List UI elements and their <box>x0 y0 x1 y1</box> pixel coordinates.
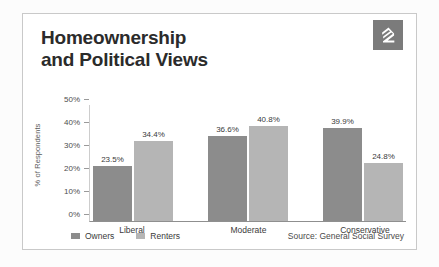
tick-dash-icon <box>84 99 89 100</box>
y-tick-0: 0% <box>68 210 89 220</box>
title-line-1: Homeownership <box>41 27 331 49</box>
page-title: Homeownership and Political Views <box>41 27 331 72</box>
legend-swatch-icon <box>71 233 80 239</box>
bar-group-conservative: 39.9% 24.8% <box>322 105 404 221</box>
bar-fill <box>249 126 288 221</box>
bar-fill <box>364 163 403 221</box>
y-tick-50: 50% <box>64 95 89 105</box>
y-tick-10: 10% <box>64 187 89 197</box>
bar-group-liberal: 23.5% 34.4% <box>92 105 174 221</box>
legend-swatch-icon <box>136 233 145 239</box>
legend-item-renters[interactable]: Renters <box>136 231 180 241</box>
bar-value-label: 40.8% <box>243 115 294 124</box>
legend-label: Owners <box>85 231 114 241</box>
bar-value-label: 24.8% <box>358 152 409 161</box>
screenshot-canvas: Homeownership and Political Views % of R… <box>0 0 439 267</box>
y-axis-ticks: 50% 40% 30% 20% 10% 0% <box>45 100 89 220</box>
bar-value-label: 34.4% <box>128 130 179 139</box>
chart-card: Homeownership and Political Views % of R… <box>22 13 417 250</box>
bar-group-moderate: 36.6% 40.8% <box>207 105 289 221</box>
y-tick-40: 40% <box>64 118 89 128</box>
zillow-z-logo-icon <box>373 20 403 50</box>
bar-fill <box>134 141 173 221</box>
title-line-2: and Political Views <box>41 49 331 71</box>
plot-area: 23.5% 34.4% 36.6% <box>89 105 406 222</box>
y-tick-20: 20% <box>64 164 89 174</box>
bar-fill <box>323 128 362 221</box>
bar-value-label: 39.9% <box>317 117 368 126</box>
chart-footer: Owners Renters Source: General Social Su… <box>23 229 416 247</box>
bar-fill <box>93 166 132 221</box>
bar-chart: % of Respondents 50% 40% 30% 20% 10% <box>23 86 418 234</box>
legend-item-owners[interactable]: Owners <box>71 231 114 241</box>
legend-label: Renters <box>150 231 180 241</box>
y-tick-30: 30% <box>64 141 89 151</box>
source-note: Source: General Social Survey <box>288 231 404 241</box>
chart-legend: Owners Renters <box>71 231 180 241</box>
bar-fill <box>208 136 247 221</box>
bar-value-label: 23.5% <box>87 155 138 164</box>
bar-value-label: 36.6% <box>202 125 253 134</box>
bar-groups: 23.5% 34.4% 36.6% <box>92 105 404 221</box>
